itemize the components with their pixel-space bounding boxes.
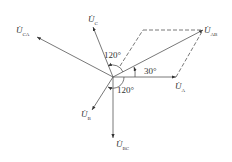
label-ua: U̇A <box>175 82 185 93</box>
angle-arc-30 <box>134 67 135 77</box>
phasor-diagram <box>0 0 232 162</box>
label-uca: U̇CA <box>16 26 29 37</box>
label-uab: U̇AB <box>204 26 217 37</box>
phasor-uca <box>37 37 113 77</box>
angle-label-top: 120° <box>104 51 121 60</box>
parallelogram-dashed <box>120 30 203 77</box>
label-ub: U̇B <box>81 110 91 121</box>
label-uc: U̇C <box>88 15 98 26</box>
angle-label-30: 30° <box>144 67 157 76</box>
phasor-ub <box>92 77 113 110</box>
label-ubc: U̇BC <box>116 140 129 151</box>
angle-label-bottom: 120° <box>117 86 134 95</box>
